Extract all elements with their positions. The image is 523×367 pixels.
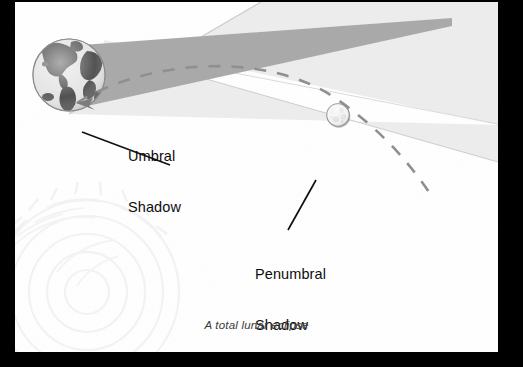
- figure-caption-text: A total lunar eclipse: [204, 319, 308, 331]
- umbral-shadow-label-line1: Umbral: [128, 148, 181, 165]
- figure-caption: A total lunar eclipse: [15, 319, 498, 331]
- earth-globe: [33, 39, 105, 111]
- penumbral-shadow-label: Penumbral Shadow: [255, 232, 326, 352]
- umbral-shadow-label-line2: Shadow: [128, 199, 181, 216]
- figure-paper: Umbral Shadow Penumbral Shadow A total l…: [15, 2, 498, 352]
- penumbral-shadow-label-line1: Penumbral: [255, 266, 326, 283]
- umbral-shadow-label: Umbral Shadow: [128, 114, 181, 250]
- figure-page: Umbral Shadow Penumbral Shadow A total l…: [0, 0, 523, 367]
